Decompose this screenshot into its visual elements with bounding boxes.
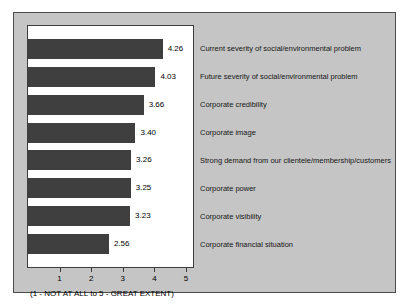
bar-row: 4.03 [28,67,193,87]
category-label: Corporate visibility [200,212,261,221]
bar-series: 4.264.033.663.403.263.253.232.56 [28,26,193,267]
category-row: Strong demand from our clientele/members… [200,151,408,171]
category-row: Future severity of social/environmental … [200,66,408,86]
category-label: Corporate credibility [200,100,267,109]
category-label: Corporate financial situation [200,240,293,249]
plot-area: 4.264.033.663.403.263.253.232.56 [27,25,194,268]
axis-scale-note: (1 - NOT AT ALL to 5 - GREAT EXTENT) [30,289,174,298]
bar-value-label: 3.23 [135,212,151,220]
category-label: Current severity of social/environmental… [200,44,361,53]
bar [28,178,131,198]
category-row: Corporate power [200,179,408,199]
value-axis: 12345 [28,268,193,290]
bar-row: 2.56 [28,234,193,254]
axis-tick-label: 1 [57,274,61,283]
bar-value-label: 3.26 [136,156,152,164]
bar [28,206,130,226]
bar-value-label: 3.66 [149,101,165,109]
bar [28,150,131,170]
category-row: Current severity of social/environmental… [200,38,408,58]
bar-value-label: 2.56 [114,240,130,248]
bar-row: 3.26 [28,150,193,170]
axis-tick-mark [123,268,124,272]
bar-row: 3.40 [28,123,193,143]
bar-value-label: 3.40 [140,129,156,137]
axis-tick-label: 5 [184,274,188,283]
axis-tick-label: 2 [89,274,93,283]
bar [28,234,109,254]
bar-row: 3.23 [28,206,193,226]
axis-tick-mark [186,268,187,272]
axis-tick-label: 3 [121,274,125,283]
category-label: Strong demand from our clientele/members… [200,156,391,165]
bar-value-label: 3.25 [136,184,152,192]
category-row: Corporate visibility [200,207,408,227]
category-row: Corporate financial situation [200,235,408,255]
chart-figure: 4.264.033.663.403.263.253.232.56 Current… [0,0,410,307]
category-label: Corporate power [200,184,256,193]
category-label: Future severity of social/environmental … [200,72,358,81]
bar [28,123,135,143]
axis-tick-label: 4 [152,274,156,283]
bar [28,39,163,59]
axis-tick-mark [91,268,92,272]
bar-row: 4.26 [28,39,193,59]
bar [28,67,155,87]
bar-row: 3.25 [28,178,193,198]
axis-tick-mark [154,268,155,272]
category-row: Corporate credibility [200,94,408,114]
bar-value-label: 4.03 [160,73,176,81]
category-label: Corporate image [200,128,256,137]
axis-tick-mark [60,268,61,272]
bar-row: 3.66 [28,95,193,115]
bar-value-label: 4.26 [168,45,184,53]
category-row: Corporate image [200,122,408,142]
category-axis-labels: Current severity of social/environmental… [200,25,408,268]
chart-panel: 4.264.033.663.403.263.253.232.56 Current… [13,12,396,293]
bar [28,95,144,115]
